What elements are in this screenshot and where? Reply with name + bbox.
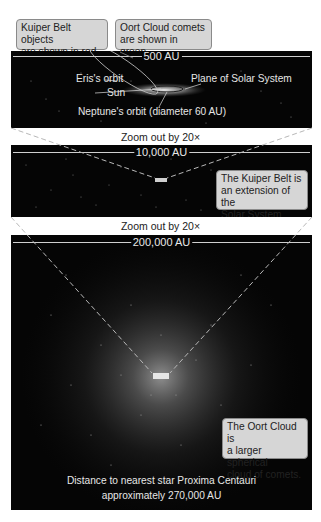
solar-system-panel: 500 AU Eris's orbit Plane of Solar Syste… bbox=[11, 51, 312, 128]
callout-line-2: a larger spherical bbox=[227, 445, 303, 469]
kuiper-legend-line-1: Kuiper Belt objects bbox=[21, 22, 103, 46]
proxima-distance-note: Distance to nearest star Proxima Centaur… bbox=[11, 473, 312, 503]
oort-legend-line-1: Oort Cloud comets bbox=[120, 22, 207, 34]
kuiper-inset-box bbox=[153, 373, 169, 379]
footer-line-1: Distance to nearest star Proxima Centaur… bbox=[11, 473, 312, 488]
footer-line-2: approximately 270,000 AU bbox=[11, 488, 312, 503]
solar-disk bbox=[122, 83, 206, 97]
callout-line-1: The Oort Cloud is bbox=[227, 421, 303, 445]
plane-label: Plane of Solar System bbox=[191, 73, 292, 85]
kuiper-legend-note: Kuiper Belt objects are shown in red. bbox=[16, 19, 108, 50]
callout-line-2: an extension of the bbox=[221, 185, 303, 209]
neptune-orbit-label: Neptune's orbit (diameter 60 AU) bbox=[78, 106, 226, 118]
sun-label: Sun bbox=[107, 87, 125, 99]
scale-label: 10,000 AU bbox=[134, 146, 189, 158]
kuiper-belt-callout: The Kuiper Belt is an extension of the S… bbox=[216, 170, 308, 210]
oort-cloud-callout: The Oort Cloud is a larger spherical clo… bbox=[222, 418, 308, 459]
zoom-out-label-2: Zoom out by 20× bbox=[0, 220, 321, 232]
callout-line-3: Solar System disk. bbox=[221, 209, 303, 217]
oort-legend-note: Oort Cloud comets are shown in green. bbox=[115, 19, 212, 50]
eris-orbit-label: Eris's orbit bbox=[76, 73, 123, 85]
oort-cloud-panel: 200,000 AU The Oort Cloud is a larger sp… bbox=[11, 235, 312, 510]
zoom-out-label-1: Zoom out by 20× bbox=[0, 131, 321, 143]
solar-system-inset-box bbox=[155, 178, 167, 182]
kuiper-belt-panel: 10,000 AU The Kuiper Belt is an extensio… bbox=[11, 145, 312, 217]
scale-bar-200000au: 200,000 AU bbox=[13, 236, 310, 248]
scale-bar-500au: 500 AU bbox=[13, 51, 310, 62]
callout-line-1: The Kuiper Belt is bbox=[221, 173, 303, 185]
scale-bar-10000au: 10,000 AU bbox=[13, 146, 310, 158]
scale-label: 200,000 AU bbox=[131, 236, 193, 248]
scale-label: 500 AU bbox=[141, 51, 181, 62]
